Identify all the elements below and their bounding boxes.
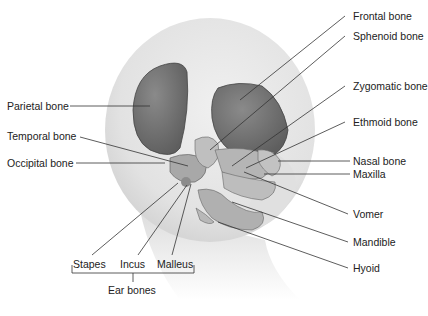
label-malleus: Malleus	[157, 258, 193, 270]
label-occipital-bone: Occipital bone	[7, 157, 74, 169]
ear-bones-shape	[181, 177, 191, 187]
label-vomer: Vomer	[353, 208, 383, 220]
skull-diagram: Frontal bone Sphenoid bone Zygomatic bon…	[0, 0, 428, 316]
label-nasal-bone: Nasal bone	[353, 155, 406, 167]
label-zygomatic-bone: Zygomatic bone	[353, 80, 428, 92]
label-ethmoid-bone: Ethmoid bone	[353, 116, 418, 128]
label-sphenoid-bone: Sphenoid bone	[353, 30, 424, 42]
label-stapes: Stapes	[73, 258, 106, 270]
label-maxilla: Maxilla	[353, 168, 386, 180]
label-ear-bones: Ear bones	[108, 284, 156, 296]
label-frontal-bone: Frontal bone	[353, 10, 412, 22]
label-temporal-bone: Temporal bone	[7, 130, 76, 142]
label-hyoid: Hyoid	[353, 262, 380, 274]
label-incus: Incus	[120, 258, 145, 270]
label-mandible: Mandible	[353, 236, 396, 248]
label-parietal-bone: Parietal bone	[7, 100, 69, 112]
